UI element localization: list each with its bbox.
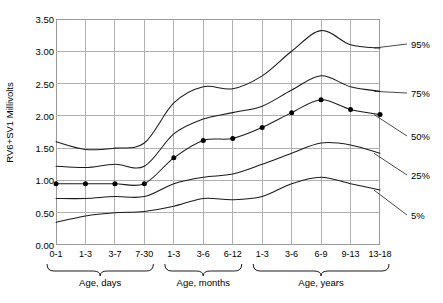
y-axis-tick-label: 1.00 [20, 175, 54, 186]
data-point-marker [260, 125, 265, 130]
percentile-curve [56, 142, 380, 198]
percentile-label-50pct: 50% [411, 131, 430, 142]
percentile-label-25pct: 25% [411, 170, 430, 181]
y-axis-title-text: RV6+SV1 Millivolts [4, 82, 15, 162]
group-bracket [47, 264, 153, 276]
x-axis-tick-label: 7-30 [135, 249, 153, 259]
y-axis-tick-label: 0.50 [20, 207, 54, 218]
y-axis-tick-label: 3.50 [20, 14, 54, 25]
x-axis-tick-label: 3-6 [197, 249, 210, 259]
group-bracket [165, 264, 242, 276]
y-axis-tick-label: 2.50 [20, 78, 54, 89]
group-bracket-label: Age, days [79, 277, 121, 288]
x-axis-tick-label: 9-13 [342, 249, 360, 259]
data-point-marker [289, 110, 294, 115]
data-point-marker [319, 97, 324, 102]
data-point-marker [142, 181, 147, 186]
y-axis-title: RV6+SV1 Millivolts [0, 0, 18, 245]
data-point-marker [201, 138, 206, 143]
data-point-marker [378, 112, 383, 117]
percentile-label-75pct: 75% [411, 88, 430, 99]
x-axis-tick-label: 1-3 [256, 249, 269, 259]
data-point-marker [83, 181, 88, 186]
y-axis-tick-label: 2.00 [20, 110, 54, 121]
chart-container: RV6+SV1 Millivolts 0.000.501.001.502.002… [0, 0, 443, 303]
data-point-marker [54, 181, 59, 186]
percentile-label-95pct: 95% [411, 39, 430, 50]
data-point-marker [171, 155, 176, 160]
percentile-label-5pct: 5% [411, 210, 425, 221]
percentile-curve [56, 31, 380, 150]
data-point-marker [348, 107, 353, 112]
x-axis-tick-label: 0-1 [49, 249, 62, 259]
percentile-curve [56, 76, 380, 168]
plot-area [56, 19, 380, 245]
percentile-curves [56, 19, 380, 245]
group-bracket-label: Age, months [177, 277, 230, 288]
x-axis-tick-label: 1-3 [167, 249, 180, 259]
y-axis-tick-label: 1.50 [20, 143, 54, 154]
group-bracket-label: Age, years [298, 277, 343, 288]
x-axis-tick-label: 13-18 [368, 249, 391, 259]
x-axis-tick-label: 3-7 [108, 249, 121, 259]
x-axis-tick-label: 1-3 [79, 249, 92, 259]
group-bracket [253, 264, 389, 276]
y-axis-tick-label: 3.00 [20, 46, 54, 57]
data-point-marker [112, 181, 117, 186]
x-axis-tick-label: 6-9 [315, 249, 328, 259]
data-point-marker [230, 136, 235, 141]
x-axis-tick-label: 6-12 [224, 249, 242, 259]
x-axis-tick-label: 3-6 [285, 249, 298, 259]
